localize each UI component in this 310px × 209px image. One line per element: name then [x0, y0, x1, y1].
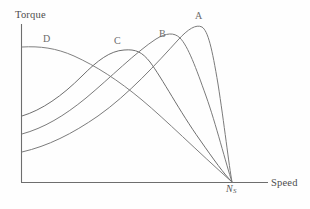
sync-speed-subscript: S — [233, 187, 237, 195]
curve-b-path — [22, 34, 232, 182]
torque-speed-chart: Torque Speed NS A B C D — [0, 0, 310, 209]
chart-canvas — [0, 0, 310, 209]
y-axis-label: Torque — [15, 9, 46, 20]
sync-speed-symbol: N — [226, 183, 233, 194]
curve-label-b: B — [159, 28, 166, 39]
curve-label-c: C — [114, 35, 121, 46]
x-axis-label: Speed — [271, 177, 298, 188]
curve-label-a: A — [195, 10, 202, 21]
synchronous-speed-label: NS — [226, 183, 237, 195]
curve-c-path — [22, 50, 232, 182]
curve-d-path — [22, 47, 232, 182]
curve-label-d: D — [43, 33, 50, 44]
